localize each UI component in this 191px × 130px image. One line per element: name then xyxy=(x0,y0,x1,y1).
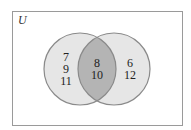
venn-diagram: U 7 9 11 8 10 6 12 xyxy=(0,0,191,130)
universe-label: U xyxy=(18,13,28,27)
left-value: 11 xyxy=(60,74,72,88)
right-value: 12 xyxy=(124,68,136,82)
intersection-value: 10 xyxy=(91,68,103,82)
